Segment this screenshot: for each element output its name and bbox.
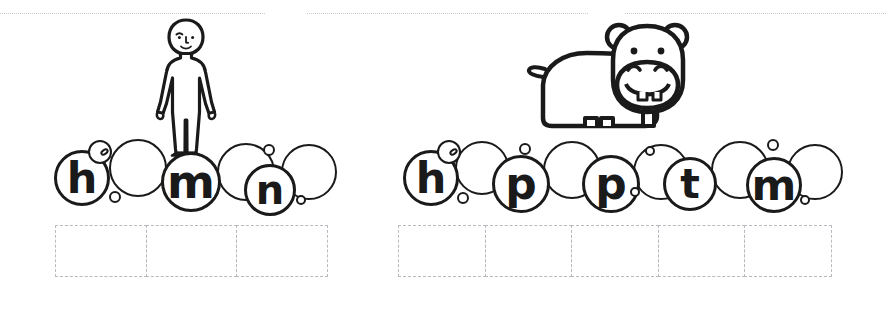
bubble-letter-text: p [505, 162, 537, 206]
dot-bubble-0 [457, 192, 469, 204]
dot-bubble-2 [296, 195, 306, 205]
answer-box[interactable] [146, 225, 238, 277]
bubble-letter-text: m [752, 164, 797, 207]
answer-boxes-human [55, 225, 330, 277]
bubble-letter-text: m [167, 159, 215, 205]
hippo-illustration [527, 22, 699, 146]
bubble-letter-text: t [680, 164, 700, 205]
highlight-bubble [88, 140, 112, 164]
exercise-hippo: hpptm [360, 0, 886, 310]
empty-bubble-1[interactable] [109, 139, 167, 197]
dot-bubble-0 [109, 191, 121, 203]
human-figure-illustration [148, 16, 224, 156]
answer-box[interactable] [236, 225, 328, 277]
dot-bubble-3 [645, 146, 655, 156]
bubble-letter-text: n [256, 170, 284, 210]
letter-bubble-t[interactable]: t [663, 157, 717, 211]
bubble-letter-text: h [67, 157, 98, 200]
letter-bubble-p[interactable]: p [582, 155, 640, 213]
answer-boxes-hippo [398, 225, 836, 277]
answer-box[interactable] [744, 225, 832, 277]
highlight-bubble [437, 140, 461, 164]
bubble-glint-icon [448, 146, 459, 156]
dot-bubble-1 [263, 144, 275, 156]
answer-box[interactable] [398, 225, 486, 277]
dot-bubble-4 [767, 139, 779, 151]
dot-bubble-2 [630, 187, 640, 197]
exercise-human: hmn [0, 0, 360, 310]
dot-bubble-5 [800, 195, 810, 205]
letter-bubble-m[interactable]: m [161, 152, 221, 212]
answer-box[interactable] [658, 225, 746, 277]
answer-box[interactable] [571, 225, 659, 277]
letter-bubble-n[interactable]: n [244, 164, 296, 216]
worksheet-page: hmn [0, 0, 886, 310]
letter-bubble-p[interactable]: p [492, 155, 550, 213]
bubble-glint-icon [99, 146, 110, 156]
answer-box[interactable] [485, 225, 573, 277]
letter-bubble-m[interactable]: m [746, 157, 802, 213]
bubble-letter-text: p [595, 162, 627, 206]
dot-bubble-1 [519, 143, 531, 155]
answer-box[interactable] [55, 225, 147, 277]
bubble-letter-text: h [416, 157, 447, 200]
